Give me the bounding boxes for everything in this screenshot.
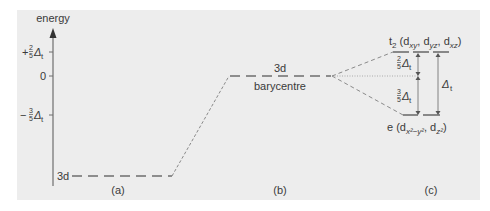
level-label-a: 3d — [57, 170, 69, 182]
e-levels: e (dx²−y², dz²) — [387, 115, 447, 136]
connector-a-b — [172, 76, 229, 176]
connector-b-t2 — [332, 52, 393, 76]
svg-text:5: 5 — [397, 96, 401, 103]
tick-label-zero: 0 — [40, 70, 46, 82]
svg-text:+: + — [22, 46, 28, 58]
t2-levels: t2 (dxy, dyz, dxz) — [389, 35, 462, 52]
svg-text:5: 5 — [29, 52, 33, 59]
svg-text:2: 2 — [29, 44, 33, 51]
caption-a: (a) — [111, 184, 124, 196]
upper-split-label: 2 5 Δ t — [397, 55, 412, 72]
level-label-b: 3d — [274, 62, 286, 74]
svg-text:3: 3 — [29, 107, 33, 114]
t2-label: t2 (dxy, dyz, dxz) — [389, 35, 462, 50]
svg-text:t: t — [41, 52, 44, 61]
axis-arrow-icon — [50, 28, 57, 38]
svg-text:2: 2 — [397, 55, 401, 62]
svg-text:−: − — [20, 109, 26, 121]
split-arrows — [416, 53, 441, 115]
caption-b: (b) — [273, 184, 286, 196]
barycentre-label: barycentre — [254, 80, 306, 92]
connector-b-e — [332, 76, 403, 115]
caption-c: (c) — [425, 184, 438, 196]
total-split-label: Δ t — [441, 78, 453, 93]
svg-text:5: 5 — [397, 63, 401, 70]
svg-text:3: 3 — [397, 88, 401, 95]
svg-text:t: t — [41, 115, 44, 124]
free-ion-level: 3d (a) — [57, 170, 172, 196]
tick-label-minus-three-fifths: − 3 5 Δ t — [20, 107, 44, 124]
svg-text:t: t — [450, 84, 453, 93]
svg-text:t: t — [409, 96, 412, 105]
svg-text:t: t — [409, 63, 412, 72]
crystal-field-splitting-diagram: energy + 2 5 Δ t 0 − 3 5 Δ t 3d (a) 3d b… — [0, 0, 490, 211]
svg-text:5: 5 — [29, 115, 33, 122]
axis-label: energy — [36, 12, 70, 24]
svg-text:Δ: Δ — [441, 78, 449, 90]
barycentre-level: 3d barycentre (b) — [230, 62, 331, 196]
lower-split-label: 3 5 Δ t — [397, 88, 412, 105]
tick-label-plus-two-fifths: + 2 5 Δ t — [22, 44, 44, 61]
e-label: e (dx²−y², dz²) — [387, 121, 447, 136]
energy-axis: energy — [36, 12, 70, 186]
